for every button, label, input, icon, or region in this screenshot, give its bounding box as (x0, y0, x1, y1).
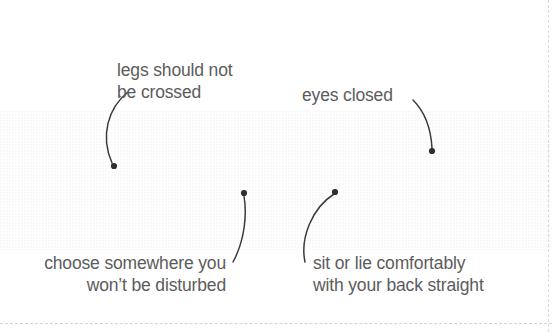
anchor-dot-legs (111, 163, 117, 169)
anchor-dot-choose (241, 190, 247, 196)
anchor-dot-sit (332, 189, 338, 195)
callout-label-choose: choose somewhere you won’t be disturbed (26, 252, 226, 297)
page-guide-right (548, 0, 549, 332)
callout-label-eyes: eyes closed (302, 84, 393, 106)
page-guide-bottom (0, 323, 552, 324)
callout-label-legs: legs should not be crossed (117, 59, 232, 104)
texture-overlay (0, 110, 552, 250)
callout-label-sit: sit or lie comfortably with your back st… (313, 252, 484, 297)
illustration-page: legs should not be crossed eyes closed c… (0, 0, 552, 332)
anchor-dot-eyes (429, 148, 435, 154)
